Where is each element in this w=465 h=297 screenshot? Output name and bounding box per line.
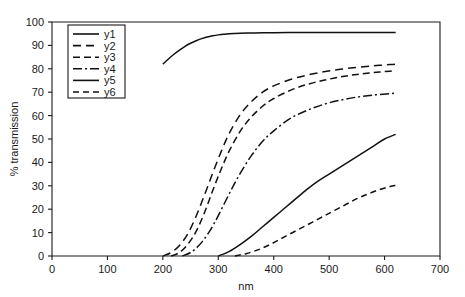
y-tick-label: 80: [32, 63, 44, 75]
x-tick-label: 0: [49, 263, 55, 275]
y-tick-label: 100: [26, 16, 44, 28]
x-tick-label: 400: [265, 263, 283, 275]
y-axis-title: % transmission: [8, 102, 20, 177]
y-tick-label: 40: [32, 156, 44, 168]
y-tick-label: 50: [32, 133, 44, 145]
y-tick-label: 0: [38, 250, 44, 262]
x-tick-label: 600: [375, 263, 393, 275]
y-tick-label: 30: [32, 180, 44, 192]
legend-label-y6: y6: [104, 86, 116, 98]
x-tick-label: 200: [154, 263, 172, 275]
y-tick-label: 60: [32, 110, 44, 122]
x-tick-label: 700: [431, 263, 449, 275]
chart-legend: y1y2y3y4y5y6: [68, 25, 125, 98]
y-tick-label: 10: [32, 227, 44, 239]
legend-label-y2: y2: [104, 40, 116, 52]
x-tick-label: 500: [320, 263, 338, 275]
y-tick-label: 20: [32, 203, 44, 215]
transmission-chart: 0100200300400500600700 01020304050607080…: [0, 0, 465, 297]
legend-frame: [68, 25, 125, 98]
y-tick-label: 70: [32, 86, 44, 98]
x-tick-label: 300: [209, 263, 227, 275]
x-tick-label: 100: [98, 263, 116, 275]
legend-label-y3: y3: [104, 51, 116, 63]
legend-label-y5: y5: [104, 74, 116, 86]
y-tick-label: 90: [32, 39, 44, 51]
legend-label-y4: y4: [104, 63, 116, 75]
legend-label-y1: y1: [104, 28, 116, 40]
x-axis-title: nm: [238, 280, 253, 292]
chart-canvas: 0100200300400500600700 01020304050607080…: [0, 0, 465, 297]
